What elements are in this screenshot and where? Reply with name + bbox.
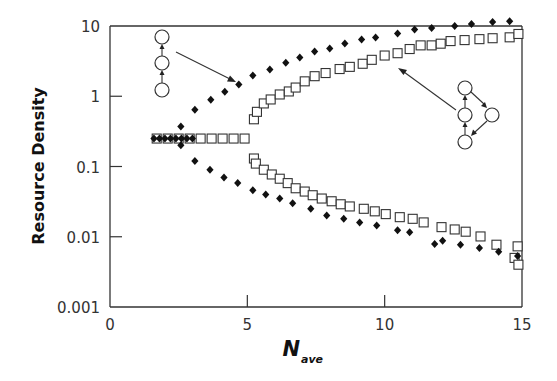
diamond-marker: [207, 96, 214, 104]
square-marker: [336, 200, 345, 209]
diamond-marker: [266, 66, 273, 74]
square-marker: [488, 34, 497, 43]
network-node-icon: [458, 81, 472, 95]
square-marker: [370, 207, 379, 216]
square-marker: [460, 36, 469, 45]
square-marker: [308, 191, 317, 200]
diamond-marker: [411, 26, 418, 34]
diamond-marker: [457, 241, 464, 249]
diamond-marker: [489, 18, 496, 26]
square-marker: [437, 223, 446, 232]
square-marker: [514, 260, 523, 269]
square-marker: [207, 134, 216, 143]
diamond-marker: [439, 237, 446, 245]
square-marker: [310, 72, 319, 81]
diamond-marker: [206, 166, 213, 174]
y-axis-title: Resource Density: [29, 87, 48, 245]
arrow-icon: [475, 121, 487, 132]
y-tick-label: 0.1: [76, 159, 100, 177]
y-tick-label: 1: [90, 88, 100, 106]
chain-network-diagram: [155, 30, 236, 97]
diamond-marker: [262, 190, 269, 198]
network-node-icon: [155, 83, 169, 97]
x-axis-title: N: [282, 337, 300, 361]
diamond-marker: [373, 221, 380, 229]
chart-canvas: 1010.10.010.001 051015 Resource Density …: [0, 0, 557, 381]
arrowhead-icon: [481, 102, 487, 108]
square-marker: [291, 83, 300, 92]
square-marker: [492, 240, 501, 249]
diamond-marker: [340, 215, 347, 223]
square-marker: [395, 213, 404, 222]
y-tick-label: 10: [81, 18, 100, 36]
diamond-marker: [282, 59, 289, 67]
square-marker: [381, 210, 390, 219]
square-marker: [405, 45, 414, 54]
arrowhead-icon: [160, 44, 165, 49]
x-tick-label: 5: [243, 316, 253, 334]
diamond-marker: [431, 240, 438, 248]
square-marker: [380, 51, 389, 60]
square-marker: [345, 62, 354, 71]
square-marker: [408, 214, 417, 223]
square-marker: [291, 184, 300, 193]
square-marker: [266, 95, 275, 104]
pointer-arrow-icon: [404, 72, 456, 110]
diamond-marker: [191, 106, 198, 114]
diamond-marker: [276, 195, 283, 203]
diamond-marker: [323, 212, 330, 220]
square-marker: [252, 107, 261, 116]
diamond-marker: [406, 228, 413, 236]
plot-frame: [110, 26, 522, 307]
diamond-marker: [451, 22, 458, 30]
diamond-marker: [177, 123, 184, 131]
square-marker: [475, 35, 484, 44]
pointer-arrow-icon: [176, 52, 230, 79]
diamond-marker: [221, 88, 228, 96]
square-marker: [476, 232, 485, 241]
diamond-marker: [506, 17, 513, 25]
diamond-marker: [358, 36, 365, 44]
square-marker: [367, 55, 376, 64]
x-tick-label: 0: [105, 316, 115, 334]
diamond-marker: [191, 157, 198, 165]
y-tick-label: 0.01: [67, 229, 100, 247]
square-marker: [436, 39, 445, 48]
square-marker: [358, 59, 367, 68]
diamond-marker: [394, 226, 401, 234]
diamond-marker: [234, 179, 241, 187]
network-node-icon: [485, 108, 499, 122]
square-marker: [275, 90, 284, 99]
x-tick-label: 15: [512, 316, 531, 334]
square-marker: [427, 41, 436, 50]
y-tick-label: 0.001: [57, 299, 100, 317]
diamond-marker: [476, 244, 483, 252]
square-marker: [416, 41, 425, 50]
arrowhead-icon: [463, 95, 468, 100]
arrowhead-icon: [463, 122, 468, 127]
network-node-icon: [155, 30, 169, 44]
square-marker: [446, 37, 455, 46]
diamond-marker: [235, 80, 242, 88]
square-marker: [218, 134, 227, 143]
diamond-marker: [289, 199, 296, 207]
diamond-marker: [356, 218, 363, 226]
diamond-marker: [249, 71, 256, 79]
square-marker: [317, 194, 326, 203]
arrowhead-icon: [398, 68, 407, 75]
diamond-marker: [326, 44, 333, 52]
diamond-marker: [468, 20, 475, 28]
square-marker: [513, 242, 522, 251]
square-marker: [300, 77, 309, 86]
square-marker: [505, 33, 514, 42]
diamond-marker: [311, 48, 318, 56]
network-node-icon: [458, 108, 472, 122]
square-marker: [393, 49, 402, 58]
arrowhead-icon: [160, 70, 165, 75]
y-ticks: 1010.10.010.001: [57, 18, 122, 317]
diamond-marker: [307, 205, 314, 213]
series-open-squares: [152, 29, 523, 269]
x-tick-label: 10: [375, 316, 394, 334]
square-marker: [450, 225, 459, 234]
diamond-marker: [296, 54, 303, 62]
